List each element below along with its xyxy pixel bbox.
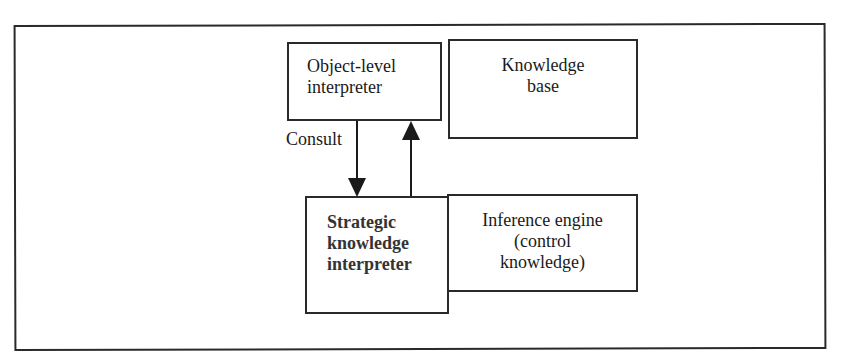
strategic-knowledge-interpreter-box: Strategic knowledge interpreter — [305, 196, 449, 314]
strategic-knowledge-interpreter-label: Strategic knowledge interpreter — [327, 212, 412, 275]
object-level-interpreter-label: Object-level interpreter — [307, 56, 396, 98]
object-level-interpreter-box: Object-level interpreter — [287, 42, 442, 121]
knowledge-base-label: Knowledge base — [450, 55, 636, 97]
inference-engine-label: Inference engine (control knowledge) — [449, 210, 636, 273]
inference-engine-box: Inference engine (control knowledge) — [447, 194, 638, 292]
consult-edge-label: Consult — [286, 129, 342, 150]
knowledge-base-box: Knowledge base — [448, 39, 638, 139]
